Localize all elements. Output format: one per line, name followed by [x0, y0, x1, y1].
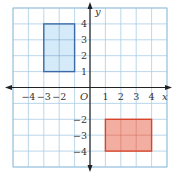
- y-axis-arrow-up-icon: [88, 2, 93, 9]
- y-tick-label: 4: [81, 18, 87, 29]
- x-tick-label: 2: [118, 91, 124, 102]
- x-tick-label: −4: [21, 91, 35, 102]
- x-tick-label: 1: [102, 91, 108, 102]
- y-tick-label: 2: [81, 50, 87, 61]
- coordinate-plane: −4−3−212344321−2−3−4 x y O: [0, 0, 173, 175]
- x-tick-label: 3: [133, 91, 139, 102]
- y-axis-arrow-down-icon: [88, 165, 93, 172]
- x-tick-label: 4: [149, 91, 155, 102]
- x-axis-label: x: [162, 91, 168, 102]
- y-tick-label: 1: [81, 66, 87, 77]
- y-tick-label: 3: [81, 34, 87, 45]
- x-axis-arrow-right-icon: [165, 85, 172, 90]
- y-tick-label: −4: [73, 146, 87, 157]
- x-axis-arrow-left-icon: [5, 85, 12, 90]
- y-tick-label: −2: [73, 114, 87, 125]
- x-tick-label: −3: [37, 91, 51, 102]
- y-tick-label: −3: [73, 130, 87, 141]
- y-axis-label: y: [94, 6, 101, 17]
- x-tick-label: −2: [52, 91, 66, 102]
- origin-label: O: [80, 91, 88, 102]
